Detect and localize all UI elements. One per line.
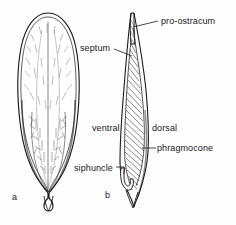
label-siphuncle: siphuncle bbox=[74, 163, 113, 173]
figure-b-section bbox=[120, 13, 148, 208]
label-septum: septum bbox=[80, 43, 110, 53]
figure-label-a: a bbox=[12, 192, 17, 202]
leader-pro-ostracum bbox=[133, 21, 158, 27]
label-pro-ostracum: pro-ostracum bbox=[161, 16, 215, 26]
figure-container: pro-ostracum septum ventral dorsal phrag… bbox=[0, 0, 236, 225]
label-dorsal: dorsal bbox=[152, 123, 177, 133]
label-ventral: ventral bbox=[92, 123, 120, 133]
guard-outer-outline bbox=[18, 13, 79, 211]
section-dorsal-shading bbox=[137, 110, 147, 197]
belemnite-illustration bbox=[0, 0, 236, 225]
section-dorsal-outline bbox=[134, 13, 148, 207]
label-phragmocone: phragmocone bbox=[157, 143, 213, 153]
figure-label-b: b bbox=[105, 190, 110, 200]
figure-a-guard bbox=[18, 13, 79, 211]
leader-septum bbox=[114, 49, 132, 56]
